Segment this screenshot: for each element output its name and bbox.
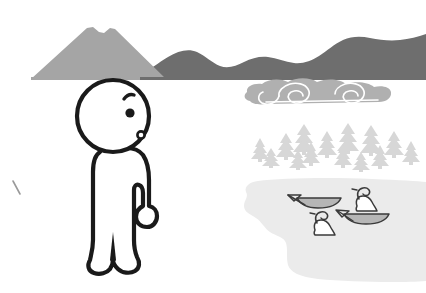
duck-beak (352, 189, 357, 190)
person-eye (125, 108, 134, 117)
illustration-canvas: Cartoon person looking at a mountain lak… (0, 0, 426, 293)
duck-beak (310, 213, 315, 214)
scene-svg: Cartoon person looking at a mountain lak… (0, 0, 426, 293)
ground-strip-dark (140, 77, 426, 80)
person-head (77, 80, 149, 152)
person-mouth (137, 131, 144, 138)
